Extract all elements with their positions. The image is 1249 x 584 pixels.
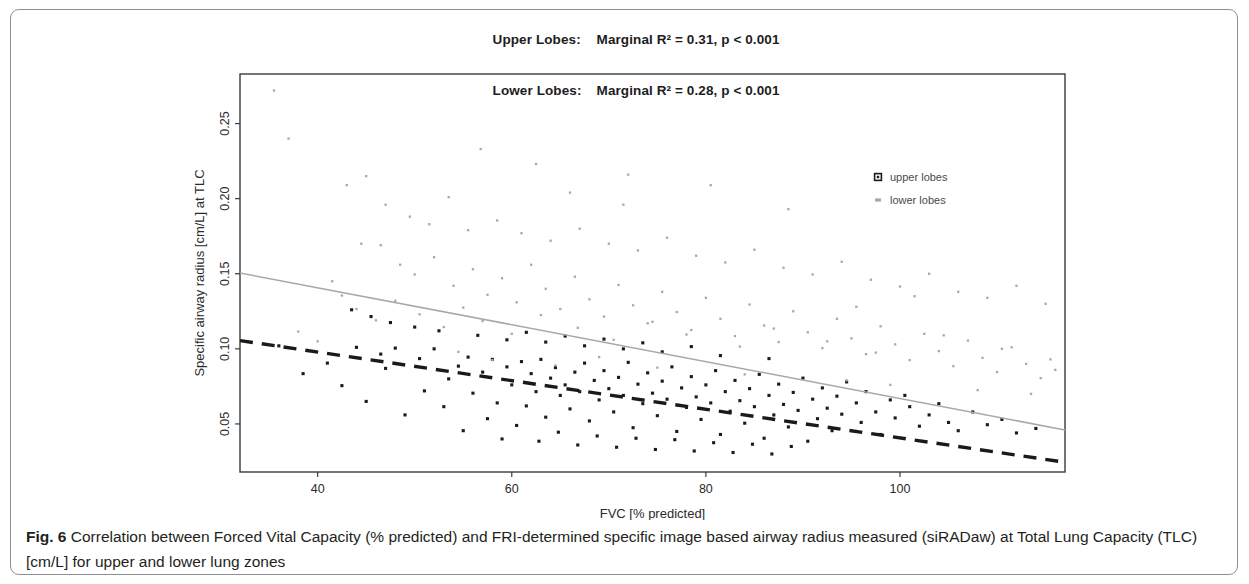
data-point — [340, 384, 343, 387]
data-point — [695, 255, 697, 257]
data-point — [695, 395, 698, 398]
data-point — [544, 416, 547, 419]
y-axis-tick-label: 0.10 — [218, 337, 232, 361]
data-point — [753, 405, 756, 408]
data-point — [821, 386, 824, 389]
data-point — [875, 351, 877, 353]
data-point — [782, 403, 785, 406]
data-point — [511, 333, 513, 335]
data-point — [673, 438, 676, 441]
data-point — [806, 440, 809, 443]
data-point — [855, 306, 857, 308]
data-point — [693, 449, 696, 452]
data-point — [574, 276, 576, 278]
data-point — [690, 375, 693, 378]
data-point — [685, 333, 687, 335]
data-point — [341, 294, 343, 296]
data-point — [739, 345, 741, 347]
data-point — [379, 353, 382, 356]
data-point — [505, 338, 508, 341]
data-point — [879, 325, 881, 327]
data-point — [409, 216, 411, 218]
data-point — [602, 369, 605, 372]
data-point — [486, 294, 488, 296]
data-point — [403, 413, 406, 416]
data-point — [957, 291, 959, 293]
data-point — [967, 339, 969, 341]
data-point — [579, 228, 581, 230]
data-point — [763, 437, 766, 440]
data-point — [676, 311, 678, 313]
data-point — [598, 356, 600, 358]
plot-frame — [240, 74, 1065, 472]
data-point — [433, 256, 435, 258]
data-point — [399, 264, 401, 266]
data-point — [699, 418, 702, 421]
data-point — [627, 361, 630, 364]
data-point — [326, 362, 329, 365]
data-point — [651, 392, 654, 395]
data-point — [607, 387, 610, 390]
data-point — [651, 321, 653, 323]
data-point — [908, 405, 911, 408]
data-point — [1030, 393, 1032, 395]
data-point — [753, 249, 755, 251]
data-point — [602, 338, 605, 341]
data-point — [836, 318, 838, 320]
data-point — [724, 261, 726, 263]
data-point — [442, 405, 445, 408]
x-axis-tick-label: 40 — [311, 482, 325, 496]
data-point — [661, 380, 664, 383]
data-point — [273, 89, 275, 91]
data-point — [666, 237, 668, 239]
data-point — [773, 327, 775, 329]
data-point — [690, 329, 692, 331]
figure-caption-text: Correlation between Forced Vital Capacit… — [26, 528, 1197, 570]
data-point — [554, 366, 557, 369]
data-point — [792, 310, 794, 312]
data-point — [1010, 346, 1012, 348]
data-point — [656, 414, 659, 417]
data-point — [1025, 363, 1027, 365]
data-point — [576, 443, 579, 446]
data-point — [515, 301, 517, 303]
data-point — [666, 398, 669, 401]
y-axis-title: Specific airway radius [cm/L] at TLC — [192, 169, 207, 376]
data-point — [545, 288, 547, 290]
data-point — [331, 280, 333, 282]
data-point — [496, 401, 499, 404]
data-point — [559, 394, 562, 397]
data-point — [418, 357, 421, 360]
data-point — [472, 268, 474, 270]
data-point — [433, 347, 436, 350]
data-point — [596, 434, 599, 437]
data-point — [850, 337, 852, 339]
data-point — [632, 426, 635, 429]
data-point — [583, 344, 586, 347]
data-point — [608, 243, 610, 245]
data-point — [845, 379, 847, 381]
data-point — [380, 244, 382, 246]
y-axis-tick-label: 0.20 — [218, 186, 232, 210]
data-point — [724, 390, 727, 393]
data-point — [675, 430, 678, 433]
data-point — [734, 335, 736, 337]
data-point — [534, 390, 537, 393]
x-axis-tick-label: 100 — [890, 482, 911, 496]
data-point — [637, 249, 639, 251]
data-point — [615, 446, 618, 449]
x-axis-tick-label: 80 — [699, 482, 713, 496]
data-point — [564, 383, 567, 386]
data-point — [860, 421, 863, 424]
data-point — [302, 372, 305, 375]
data-point — [1049, 358, 1051, 360]
data-point — [1044, 303, 1046, 305]
data-point — [1054, 369, 1056, 371]
data-point — [641, 341, 644, 344]
trendline-lower-lobes — [240, 273, 1065, 430]
data-point — [612, 410, 615, 413]
data-point — [491, 359, 493, 361]
data-point — [634, 437, 637, 440]
data-point — [486, 417, 489, 420]
x-axis-tick-label: 60 — [505, 482, 519, 496]
